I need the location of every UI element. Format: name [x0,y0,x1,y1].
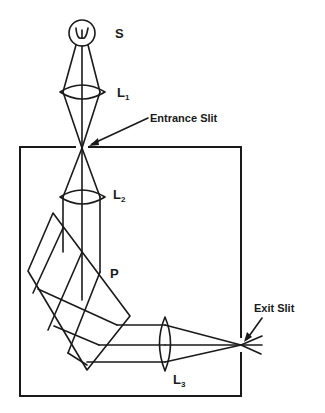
entrance-slit-pointer [89,118,148,146]
input-beam [63,45,100,300]
exit-slit-pointer [244,318,262,342]
entrance-slit-label: Entrance Slit [150,112,218,124]
source-label: S [115,26,124,41]
lens-l2-label: L2 [113,187,126,204]
monochromator-diagram: S L1 Entrance Slit L2 P [0,0,325,413]
lens-l3-label: L3 [173,372,186,389]
dispersed-beam [87,325,262,362]
lens-l1-label: L1 [117,85,130,102]
prism-label: P [110,266,119,281]
light-source-icon [69,20,95,46]
housing-frame [20,147,241,396]
prism-icon [28,213,130,370]
exit-slit-label: Exit Slit [254,302,295,314]
